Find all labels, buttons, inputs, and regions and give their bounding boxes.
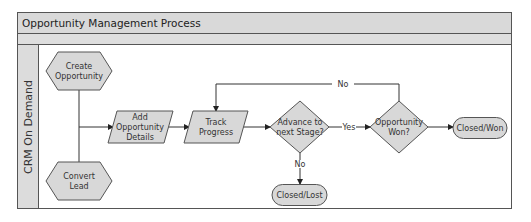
node-create-label-1: Create	[66, 62, 93, 71]
node-add-label-1: Add	[132, 113, 148, 122]
node-closed-won-label: Closed/Won	[457, 124, 504, 133]
node-advance-label-2: next Stage?	[276, 128, 324, 137]
edge-label-no-loop: No	[338, 80, 349, 89]
process-diagram: Opportunity Management Process CRM On De…	[0, 0, 531, 222]
node-track-label-2: Progress	[199, 128, 233, 137]
node-create-label-2: Opportunity	[55, 72, 103, 81]
node-track-label-1: Track	[205, 118, 227, 127]
node-add-label-3: Details	[126, 133, 154, 142]
node-add-label-2: Opportunity	[116, 123, 164, 132]
edge-label-no-down: No	[295, 160, 306, 169]
node-closed-lost-label: Closed/Lost	[276, 191, 322, 200]
node-won-label-1: Opportunity	[375, 118, 423, 127]
node-advance-label-1: Advance to	[277, 118, 322, 127]
node-convert-lead[interactable]	[46, 162, 112, 200]
node-won-label-2: Won?	[388, 128, 410, 137]
node-track-progress[interactable]	[184, 111, 248, 143]
edge-label-yes: Yes	[342, 123, 356, 132]
diagram-title: Opportunity Management Process	[22, 17, 201, 29]
node-create-opportunity[interactable]	[46, 52, 112, 90]
node-convert-label-2: Lead	[69, 182, 88, 191]
lane-label: CRM On Demand	[22, 80, 35, 174]
node-convert-label-1: Convert	[63, 172, 95, 181]
header-band	[18, 34, 512, 45]
